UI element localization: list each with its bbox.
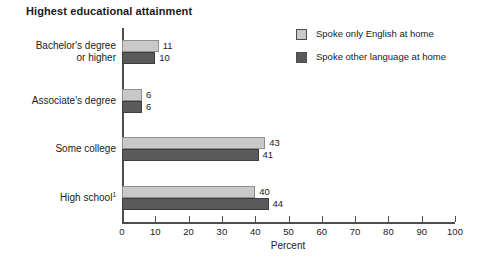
- x-axis-tick-label: 80: [383, 226, 394, 237]
- x-axis-tick: [422, 216, 423, 222]
- bar-value-label: 41: [263, 149, 274, 161]
- bar-1: [122, 198, 269, 210]
- bar-1: [122, 149, 259, 161]
- x-axis-tick-label: 90: [416, 226, 427, 237]
- bar-value-label: 11: [163, 40, 173, 52]
- x-axis-tick-label: 20: [183, 226, 194, 237]
- x-axis-tick-label: 50: [283, 226, 294, 237]
- x-axis-tick-label: 70: [350, 226, 361, 237]
- x-axis-tick: [255, 216, 256, 222]
- x-axis-line: [122, 222, 455, 224]
- x-axis-tick: [388, 216, 389, 222]
- x-axis-tick: [455, 216, 456, 222]
- x-axis-tick-label: 100: [447, 226, 463, 237]
- x-axis-tick-label: 0: [119, 226, 124, 237]
- category-label: Some college: [55, 143, 116, 156]
- bar-group: 66: [122, 89, 455, 113]
- bar-value-label: 6: [146, 101, 151, 113]
- x-axis-tick-label: 10: [150, 226, 161, 237]
- x-axis-tick-label: 30: [217, 226, 228, 237]
- plot-area: Percent 01020304050607080901001110664341…: [122, 28, 455, 222]
- bar-0: [122, 137, 265, 149]
- category-axis-labels: Bachelor's degreeor higherAssociate's de…: [0, 28, 116, 222]
- bar-0: [122, 89, 142, 101]
- x-axis-tick: [355, 216, 356, 222]
- x-axis-tick: [155, 216, 156, 222]
- bar-group: 4341: [122, 137, 455, 161]
- bar-value-label: 43: [269, 137, 280, 149]
- x-axis-tick: [322, 216, 323, 222]
- bar-value-label: 40: [259, 186, 270, 198]
- x-axis-tick: [222, 216, 223, 222]
- x-axis-title: Percent: [271, 240, 305, 251]
- x-axis-tick-label: 60: [317, 226, 328, 237]
- category-label: Bachelor's degreeor higher: [36, 40, 116, 65]
- bar-value-label: 44: [273, 198, 284, 210]
- x-axis-tick: [289, 216, 290, 222]
- bar-1: [122, 52, 155, 64]
- x-axis-tick-label: 40: [250, 226, 261, 237]
- bar-value-label: 10: [159, 52, 170, 64]
- bar-chart: Highest educational attainment Spoke onl…: [0, 0, 478, 257]
- bar-0: [122, 40, 159, 52]
- category-label: High school1: [60, 192, 116, 205]
- x-axis-tick: [189, 216, 190, 222]
- bar-value-label: 6: [146, 89, 151, 101]
- bar-group: 1110: [122, 40, 455, 64]
- x-axis-tick: [122, 216, 123, 222]
- chart-title: Highest educational attainment: [26, 5, 192, 17]
- category-label: Associate's degree: [32, 95, 116, 108]
- bar-0: [122, 186, 255, 198]
- bar-group: 4044: [122, 186, 455, 210]
- footnote-marker: 1: [112, 190, 116, 197]
- bar-1: [122, 101, 142, 113]
